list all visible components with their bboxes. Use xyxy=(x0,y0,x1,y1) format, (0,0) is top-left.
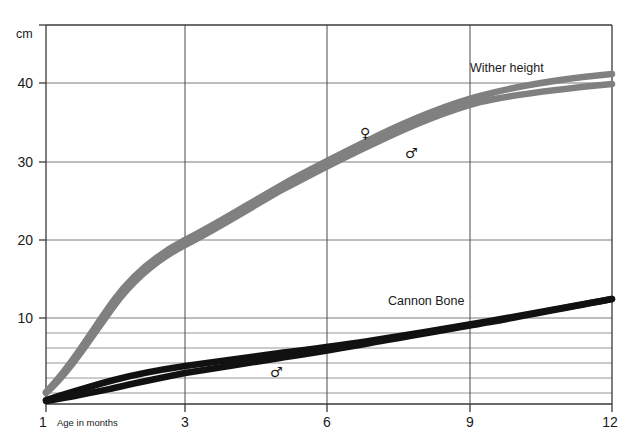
y-tick-label-20: 20 xyxy=(17,232,33,248)
y-axis-unit-label: cm xyxy=(16,27,33,41)
y-tick-label-10: 10 xyxy=(17,310,33,326)
male-symbol-wither-height: ♂ xyxy=(405,145,418,161)
series-line-cannon-bone-female xyxy=(46,299,612,401)
x-tick-marks xyxy=(46,404,612,412)
chart-canvas: cm 40 30 20 10 1 3 6 9 12 Age in months … xyxy=(0,0,630,439)
y-tick-label-30: 30 xyxy=(17,154,33,170)
x-tick-label-9: 9 xyxy=(466,414,474,430)
series-label-cannon-bone: Cannon Bone xyxy=(388,294,465,308)
x-tick-label-3: 3 xyxy=(181,414,189,430)
female-symbol-wither-height: ♀ xyxy=(360,125,370,141)
x-axis-caption: Age in months xyxy=(57,417,118,428)
x-tick-label-12: 12 xyxy=(602,414,618,430)
x-tick-label-6: 6 xyxy=(323,414,331,430)
series-label-wither-height: Wither height xyxy=(470,61,544,75)
male-symbol-cannon-bone: ♂ xyxy=(270,364,283,380)
y-tick-marks xyxy=(39,25,46,318)
x-tick-label-1: 1 xyxy=(39,414,47,430)
y-tick-label-40: 40 xyxy=(17,75,33,91)
growth-chart: cm 40 30 20 10 1 3 6 9 12 Age in months … xyxy=(0,0,630,439)
